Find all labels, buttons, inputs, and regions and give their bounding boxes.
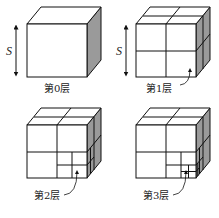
panel-label-level-1: 第1层	[146, 82, 172, 94]
size-arrow: S	[116, 27, 126, 74]
cube-level-1	[136, 7, 210, 77]
cube-level-3	[136, 108, 210, 178]
size-label: S	[116, 44, 122, 58]
octree-figure: S 第0层 S 第1层 第2层	[0, 0, 219, 218]
panel-label-level-0: 第0层	[44, 82, 70, 94]
panel-label-level-3: 第3层	[143, 189, 169, 201]
size-arrow: S	[6, 27, 16, 74]
cube-level-0	[27, 7, 101, 77]
size-label: S	[6, 44, 12, 58]
cube-level-2	[27, 108, 101, 178]
panel-label-level-2: 第2层	[34, 189, 60, 201]
